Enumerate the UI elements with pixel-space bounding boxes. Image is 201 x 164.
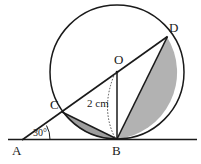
radius-measure-label: 2 cm xyxy=(87,98,109,109)
center-label-o: O xyxy=(114,53,123,66)
shaded-major-segment xyxy=(117,37,177,139)
chord-CB xyxy=(62,112,117,139)
point-label-b: B xyxy=(112,144,121,157)
point-label-c: C xyxy=(50,98,59,111)
point-label-a: A xyxy=(12,144,21,157)
center-point-O xyxy=(116,71,119,74)
angle-arc-at-A xyxy=(47,126,51,140)
geometry-figure: A B C D O 2 cm 30° xyxy=(0,0,201,164)
angle-measure-label: 30° xyxy=(33,128,47,138)
point-label-d: D xyxy=(169,21,178,34)
